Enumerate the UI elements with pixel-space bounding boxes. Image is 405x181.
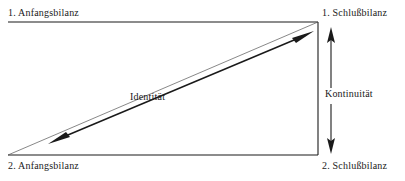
diagram-canvas: 1. Anfangsbilanz 1. Schlußbilanz 2. Anfa… [0, 0, 405, 181]
identity-double-arrow [48, 31, 314, 144]
label-schlussbilanz-1: 1. Schlußbilanz [322, 7, 387, 18]
label-kontinuitaet: Kontinuität [325, 88, 373, 99]
label-identitaet: Identität [130, 91, 165, 102]
label-anfangsbilanz-1: 1. Anfangsbilanz [8, 7, 79, 18]
label-schlussbilanz-2: 2. Schlußbilanz [322, 160, 387, 171]
label-anfangsbilanz-2: 2. Anfangsbilanz [8, 160, 79, 171]
diagonal-thin-line [8, 22, 318, 155]
continuity-arrow-up [327, 27, 335, 88]
continuity-arrow-down [327, 104, 335, 154]
